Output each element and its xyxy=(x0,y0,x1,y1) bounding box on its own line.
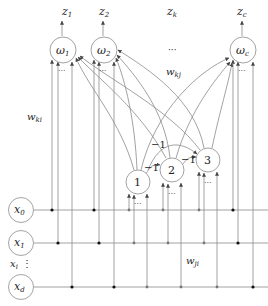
output-label-z2: z2 xyxy=(98,5,110,19)
svg-text:···: ··· xyxy=(238,66,246,75)
input-node-x1: x1 xyxy=(9,231,34,256)
output-ellipses: ··· ··· ··· ··· xyxy=(58,45,246,75)
svg-text:···: ··· xyxy=(168,189,176,198)
input-ellipsis-xi: xi ⋮ xyxy=(10,258,32,271)
svg-text:⋮: ⋮ xyxy=(22,258,32,269)
inhibit-label-1-2: −1 xyxy=(144,162,159,173)
output-node-omega1: ω1 xyxy=(50,37,76,63)
weight-label-wkj: wkj xyxy=(166,66,182,79)
input-buses xyxy=(34,210,268,287)
input-node-x0: x0 xyxy=(9,198,34,223)
svg-text:2: 2 xyxy=(168,164,175,177)
output-node-omegac: ωc xyxy=(230,37,256,63)
output-arrows xyxy=(62,21,242,36)
output-node-omega2: ω2 xyxy=(91,37,117,63)
junction-dots xyxy=(50,208,254,288)
hidden-node-2: 2 xyxy=(160,158,184,182)
input-node-xd: xd xyxy=(9,275,34,300)
svg-text:xi: xi xyxy=(10,258,18,271)
svg-text:···: ··· xyxy=(58,66,66,75)
weight-label-wji: wji xyxy=(186,255,199,268)
inhibit-label-1-3: −1 xyxy=(151,139,166,150)
neural-network-diagram: z1 z2 zk zc xyxy=(0,0,268,306)
input-output-connections xyxy=(52,60,253,287)
output-label-zk: zk xyxy=(166,5,177,19)
svg-text:···: ··· xyxy=(134,199,142,208)
svg-text:1: 1 xyxy=(134,176,141,189)
svg-text:···: ··· xyxy=(99,66,107,75)
svg-text:···: ··· xyxy=(168,45,177,55)
output-labels: z1 z2 zk zc xyxy=(61,5,247,19)
hidden-node-1: 1 xyxy=(126,170,150,194)
output-label-z1: z1 xyxy=(61,5,72,19)
output-label-zc: zc xyxy=(236,5,247,19)
hidden-node-3: 3 xyxy=(196,148,220,172)
svg-text:3: 3 xyxy=(204,154,211,167)
weight-label-wki: wki xyxy=(27,111,42,124)
inhibit-label-2-3: −1 xyxy=(181,154,196,165)
svg-text:···: ··· xyxy=(204,178,212,187)
